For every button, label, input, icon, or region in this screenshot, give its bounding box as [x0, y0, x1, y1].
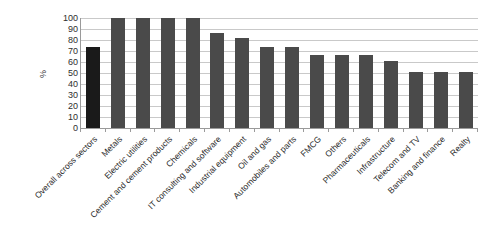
bar [111, 18, 125, 128]
y-axis-title: % [33, 64, 53, 84]
y-axis-tick-label: 40 [68, 80, 78, 89]
bar [459, 72, 473, 128]
y-axis-tick-label: 90 [68, 25, 78, 34]
bar [235, 38, 249, 128]
y-axis-tick-label: 80 [68, 36, 78, 45]
y-axis-tick-label: 30 [68, 91, 78, 100]
bar [210, 33, 224, 128]
bar [161, 18, 175, 128]
bar [409, 72, 423, 128]
bar [359, 55, 373, 128]
y-axis-tick-labels: 1009080706050403020100 [52, 12, 78, 136]
plot-area [80, 18, 478, 129]
y-axis-tick-label: 60 [68, 58, 78, 67]
y-axis-tick-label: 50 [68, 69, 78, 78]
bar [186, 18, 200, 128]
bar [310, 55, 324, 128]
y-axis-tick-label: 100 [63, 14, 78, 23]
bar [260, 47, 274, 128]
x-axis-tick-labels: Overall across sectorsMetalsElectric uti… [0, 132, 502, 251]
y-axis-tick-label: 10 [68, 113, 78, 122]
bar [434, 72, 448, 128]
bar-series [81, 18, 478, 128]
bar [335, 55, 349, 128]
bar [136, 18, 150, 128]
bar [384, 61, 398, 128]
bar [86, 47, 100, 128]
y-axis-tick-label: 70 [68, 47, 78, 56]
bar [285, 47, 299, 128]
y-axis-tick-label: 20 [68, 102, 78, 111]
bar-chart: % 1009080706050403020100 Overall across … [0, 0, 502, 251]
